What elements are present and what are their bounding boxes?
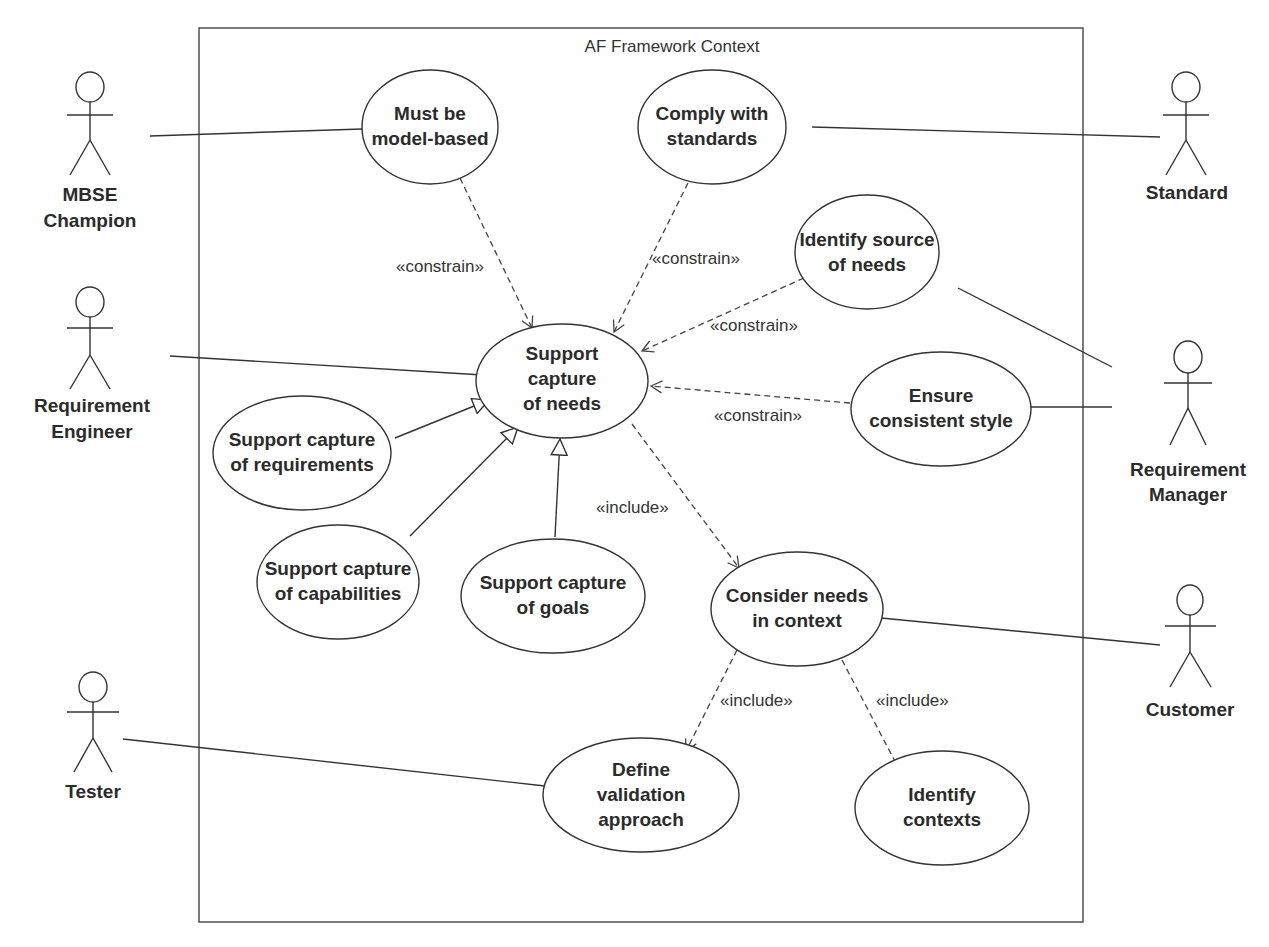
dep-constrain-modelbased [460, 178, 532, 328]
svg-text:Customer: Customer [1146, 699, 1235, 720]
svg-text:Ensure: Ensure [909, 385, 973, 406]
svg-text:of needs: of needs [828, 254, 906, 275]
use-case-identify-contexts[interactable]: Identify contexts [855, 751, 1029, 865]
actor-customer[interactable]: Customer [1146, 585, 1235, 720]
svg-text:Champion: Champion [44, 210, 137, 231]
label-include: «include» [720, 691, 793, 710]
svg-text:Manager: Manager [1149, 484, 1228, 505]
use-case-model-based[interactable]: Must be model-based [362, 70, 498, 184]
svg-text:MBSE: MBSE [63, 184, 118, 205]
svg-text:of needs: of needs [523, 393, 601, 414]
stick-figure-icon [67, 287, 113, 389]
use-case-support-goals[interactable]: Support capture of goals [461, 539, 645, 653]
svg-text:Engineer: Engineer [51, 421, 133, 442]
svg-text:Standard: Standard [1146, 182, 1228, 203]
actor-tester[interactable]: Tester [65, 672, 121, 802]
assoc-consider-customer [881, 618, 1160, 645]
svg-text:of requirements: of requirements [230, 454, 374, 475]
svg-text:Tester: Tester [65, 781, 121, 802]
svg-text:Support: Support [526, 343, 599, 364]
label-constrain: «constrain» [710, 316, 798, 335]
stick-figure-icon [1165, 585, 1216, 687]
use-case-ensure-style[interactable]: Ensure consistent style [851, 352, 1031, 466]
actor-mbse-champion[interactable]: MBSE Champion [44, 72, 137, 231]
label-constrain: «constrain» [714, 406, 802, 425]
svg-text:in context: in context [752, 610, 842, 631]
gen-cap-to-needs [410, 427, 518, 536]
svg-text:contexts: contexts [903, 809, 981, 830]
svg-text:Consider needs: Consider needs [726, 585, 869, 606]
label-constrain: «constrain» [652, 249, 740, 268]
svg-text:Support capture: Support capture [265, 558, 412, 579]
svg-text:standards: standards [667, 128, 758, 149]
svg-text:capture: capture [528, 368, 597, 389]
label-include: «include» [596, 498, 669, 517]
use-case-identify-source[interactable]: Identify source of needs [795, 195, 939, 309]
use-case-comply-standards[interactable]: Comply with standards [638, 70, 786, 184]
svg-text:Requirement: Requirement [1130, 459, 1247, 480]
label-constrain: «constrain» [396, 257, 484, 276]
svg-text:Define: Define [612, 759, 670, 780]
assoc-identifysource-reqmgr [958, 288, 1112, 367]
svg-text:of goals: of goals [517, 597, 590, 618]
svg-text:Requirement: Requirement [34, 395, 151, 416]
use-case-diagram: AF Framework Context «constrain» «constr… [0, 0, 1269, 947]
svg-text:approach: approach [598, 809, 684, 830]
svg-text:Identify source: Identify source [799, 229, 934, 250]
svg-text:Comply with: Comply with [656, 103, 769, 124]
svg-text:Support capture: Support capture [229, 429, 376, 450]
gen-goals-to-needs [555, 439, 560, 537]
stick-figure-icon [1163, 72, 1209, 175]
use-case-support-capture-needs[interactable]: Support capture of needs [476, 324, 648, 438]
actor-requirement-engineer[interactable]: Requirement Engineer [34, 287, 151, 442]
use-case-support-capabilities[interactable]: Support capture of capabilities [257, 525, 419, 639]
actor-requirement-manager[interactable]: Requirement Manager [1130, 341, 1247, 505]
use-case-consider-needs[interactable]: Consider needs in context [711, 552, 883, 666]
stick-figure-icon [67, 72, 113, 175]
label-include: «include» [876, 691, 949, 710]
frame-title: AF Framework Context [585, 37, 760, 56]
svg-text:consistent style: consistent style [869, 410, 1013, 431]
dep-include-identifyctx [842, 660, 900, 771]
dep-constrain-ensure [651, 386, 850, 403]
svg-text:of capabilities: of capabilities [275, 583, 402, 604]
assoc-tester-defineval [123, 739, 545, 786]
gen-req-to-needs [395, 400, 489, 438]
use-case-support-requirements[interactable]: Support capture of requirements [213, 396, 391, 510]
assoc-reqeng-supportneeds [170, 356, 483, 375]
svg-text:validation: validation [597, 784, 686, 805]
svg-text:Identify: Identify [908, 784, 976, 805]
assoc-mbse-modelbased [150, 129, 362, 136]
dep-constrain-identifysource [642, 278, 804, 351]
assoc-comply-standard [812, 127, 1160, 137]
use-case-define-validation[interactable]: Define validation approach [543, 738, 739, 852]
dep-include-consider [632, 424, 739, 568]
stick-figure-icon [1164, 341, 1212, 445]
svg-text:Support capture: Support capture [480, 572, 627, 593]
svg-text:Must be: Must be [394, 103, 466, 124]
svg-text:model-based: model-based [371, 128, 488, 149]
stick-figure-icon [67, 672, 119, 772]
